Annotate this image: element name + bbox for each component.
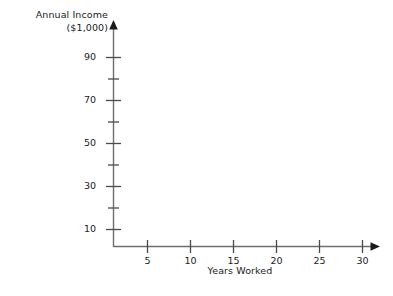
clipped-caption xyxy=(28,288,368,296)
chart-figure: Annual Income ($1,000) 90 70 xyxy=(0,0,393,296)
y-tick-label-30: 30 xyxy=(62,181,96,191)
axes-and-ticks xyxy=(0,0,393,296)
x-axis-arrowhead xyxy=(371,242,381,251)
x-axis-title: Years Worked xyxy=(160,265,320,276)
y-axis-arrowhead xyxy=(109,20,118,30)
y-tick-label-70: 70 xyxy=(62,95,96,105)
x-tick-label-30: 30 xyxy=(348,256,378,266)
y-tick-label-90: 90 xyxy=(62,52,96,62)
y-tick-label-10: 10 xyxy=(62,224,96,234)
y-tick-label-50: 50 xyxy=(62,138,96,148)
x-tick-label-5: 5 xyxy=(133,256,163,266)
